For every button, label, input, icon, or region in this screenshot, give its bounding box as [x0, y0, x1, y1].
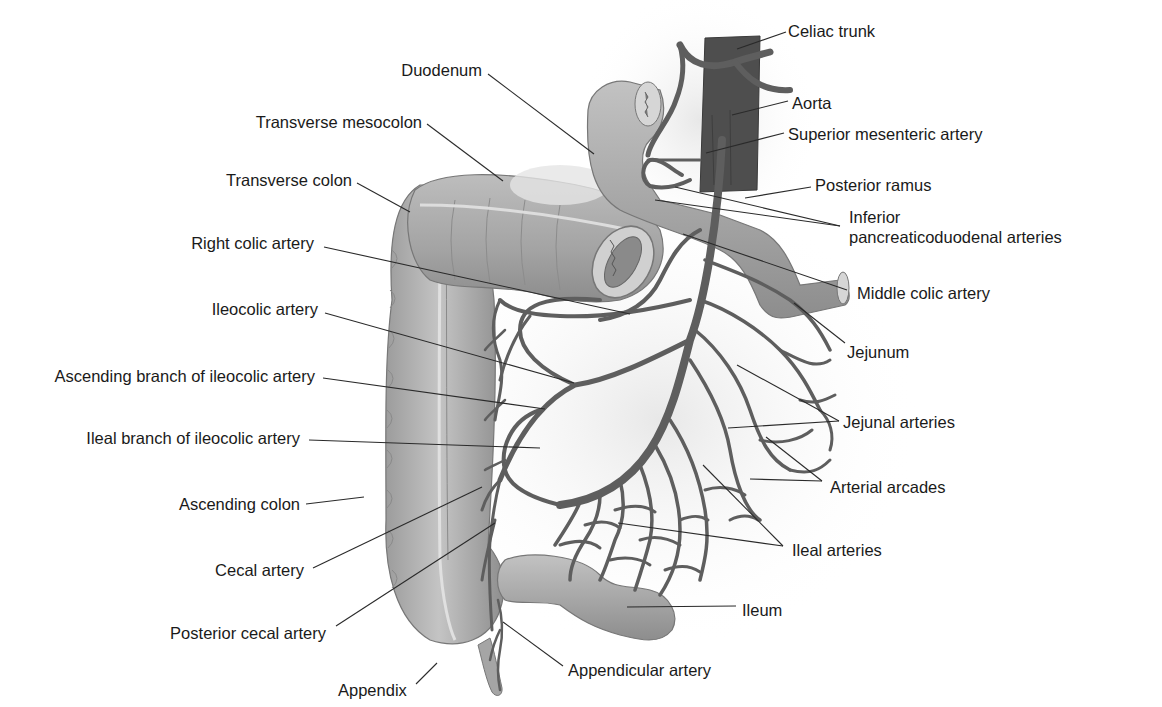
label-ileocolic-artery: Ileocolic artery [198, 299, 318, 319]
label-aorta: Aorta [792, 93, 831, 113]
label-inferior-pancreaticoduodenal-arteries: Inferiorpancreaticoduodenal arteries [849, 207, 1062, 247]
label-superior-mesenteric-artery: Superior mesenteric artery [788, 124, 982, 144]
label-celiac-trunk: Celiac trunk [788, 21, 875, 41]
label-ascending-branch-of-ileocolic-artery: Ascending branch of ileocolic artery [23, 366, 315, 386]
label-ileal-branch-of-ileocolic-artery: Ileal branch of ileocolic artery [60, 428, 300, 448]
label-duodenum: Duodenum [300, 60, 482, 80]
anatomy-illustration [0, 0, 1162, 707]
label-arterial-arcades: Arterial arcades [830, 477, 946, 497]
label-middle-colic-artery: Middle colic artery [857, 283, 990, 303]
label-appendicular-artery: Appendicular artery [568, 660, 711, 680]
leader-line-transverse-colon [357, 183, 410, 212]
leader-line-duodenum [488, 74, 594, 154]
label-jejunum: Jejunum [847, 342, 909, 362]
label-ileal-arteries: Ileal arteries [792, 540, 882, 560]
label-appendix: Appendix [338, 680, 407, 700]
label-jejunal-arteries: Jejunal arteries [843, 412, 955, 432]
leader-line-ascending-colon [306, 497, 364, 504]
leader-line-transverse-mesocolon [427, 124, 503, 181]
leader-line-appendix [416, 663, 437, 684]
label-right-colic-artery: Right colic artery [176, 233, 314, 253]
label-transverse-mesocolon: Transverse mesocolon [238, 112, 422, 132]
label-posterior-ramus: Posterior ramus [815, 175, 931, 195]
label-posterior-cecal-artery: Posterior cecal artery [152, 623, 326, 643]
label-transverse-colon: Transverse colon [200, 170, 352, 190]
label-cecal-artery: Cecal artery [204, 560, 304, 580]
label-ileum: Ileum [742, 600, 782, 620]
label-ascending-colon: Ascending colon [164, 494, 300, 514]
